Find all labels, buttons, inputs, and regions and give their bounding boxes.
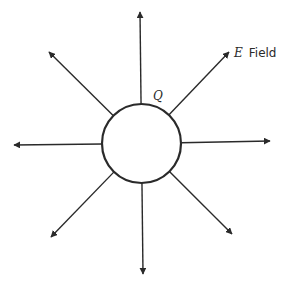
field-diagram: Q E Field <box>0 0 282 286</box>
field-line-arrow-up-right <box>169 52 229 115</box>
field-line-arrow-left <box>14 144 102 145</box>
charge-label: Q <box>153 89 163 103</box>
e-field-symbol: E <box>233 46 243 60</box>
e-field-label: E Field <box>233 46 276 60</box>
e-field-text: Field <box>249 46 277 60</box>
field-line-arrow-down-left <box>51 172 114 237</box>
field-line-arrow-right <box>181 141 270 143</box>
field-line-arrow-down-right <box>169 171 232 234</box>
field-line-arrow-up <box>140 12 141 104</box>
field-line-arrow-up-left <box>49 52 113 116</box>
field-line-arrow-down <box>142 183 143 274</box>
charge-sphere <box>102 104 181 183</box>
